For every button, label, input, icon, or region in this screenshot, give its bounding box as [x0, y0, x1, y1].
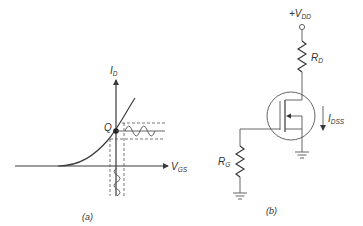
drain-resistor-label: RD: [311, 52, 323, 64]
transfer-characteristic-plot: ID VGS Q (a): [15, 65, 188, 222]
vdd-terminal: [299, 24, 304, 29]
transfer-curve: [58, 98, 135, 166]
panel-b-caption: (b): [266, 206, 277, 216]
drain-resistor: [298, 41, 306, 72]
input-signal-wave: [114, 168, 120, 196]
gate-resistor-label: RG: [218, 156, 230, 168]
q-point-label: Q: [104, 122, 112, 133]
gate-ground-icon: [233, 193, 247, 199]
gate-resistor: [236, 146, 244, 177]
substrate-arrow-icon: [286, 114, 291, 119]
figure-canvas: ID VGS Q (a): [0, 0, 363, 226]
mosfet-bias-circuit: +VDD RD RG IDSS (b): [218, 8, 345, 216]
vdd-label: +VDD: [289, 8, 311, 20]
current-label: IDSS: [328, 113, 345, 125]
vgs-axis-label: VGS: [171, 161, 188, 173]
panel-a-caption: (a): [82, 212, 93, 222]
id-axis-label: ID: [110, 65, 118, 77]
source-ground-icon: [295, 152, 309, 158]
